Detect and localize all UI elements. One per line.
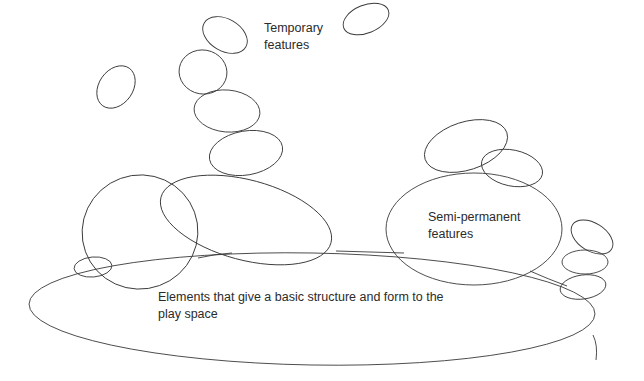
semi-permanent-ellipse-left — [66, 159, 214, 306]
semi-permanent-ellipse-right-a — [565, 213, 619, 261]
base-structure-label: Elements that give a basic structure and… — [158, 289, 478, 323]
semi-permanent-features-label: Semi-permanent features — [428, 209, 520, 243]
semi-permanent-ellipse-top-b — [478, 144, 546, 192]
semi-permanent-ellipse-right-b — [562, 250, 608, 274]
temporary-features-label: Temporary features — [264, 20, 323, 54]
semi-permanent-ellipse-top-a — [418, 110, 515, 182]
temporary-ellipse-4 — [206, 125, 287, 181]
temporary-ellipse-6 — [89, 58, 143, 115]
temporary-ellipse-1 — [196, 9, 254, 61]
play-space-diagram — [0, 0, 644, 381]
temporary-ellipse-5 — [339, 0, 394, 41]
connector-line — [593, 335, 597, 360]
semi-permanent-ellipse-large — [151, 159, 342, 282]
